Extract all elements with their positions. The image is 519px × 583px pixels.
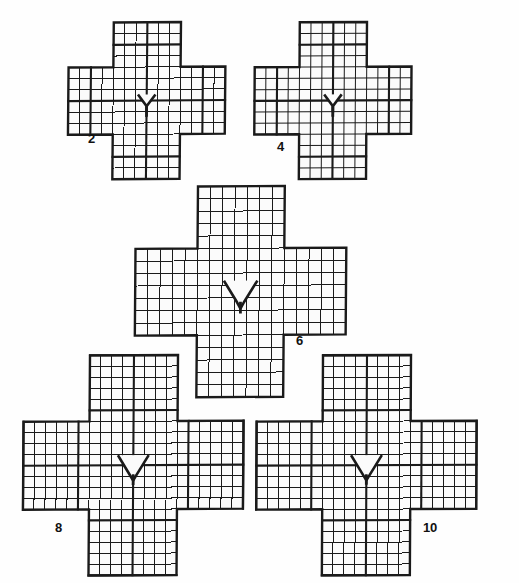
cross-grid xyxy=(68,22,226,180)
figure-10-canvas xyxy=(251,349,483,581)
figure-label-6: 6 xyxy=(296,334,303,347)
figure-4-canvas xyxy=(249,16,418,185)
figure-10 xyxy=(251,349,483,581)
cross-grid xyxy=(256,355,477,576)
figure-2 xyxy=(63,16,232,185)
figure-label-8: 8 xyxy=(55,521,62,534)
cross-grid xyxy=(254,22,412,180)
figure-8 xyxy=(18,349,250,581)
figure-4 xyxy=(249,16,418,185)
figure-2-canvas xyxy=(63,16,232,185)
figure-label-10: 10 xyxy=(423,521,437,534)
figure-8-canvas xyxy=(18,349,250,581)
figure-label-2: 2 xyxy=(88,132,95,145)
figure-sheet: 246810 xyxy=(0,0,519,583)
figure-label-4: 4 xyxy=(277,140,284,153)
cross-grid xyxy=(23,355,244,576)
